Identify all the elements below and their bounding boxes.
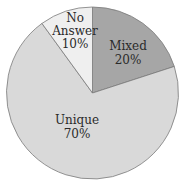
label-noanswer-value: 10% (62, 37, 89, 51)
label-noanswer-line1: No (66, 11, 84, 25)
label-mixed-name: Mixed (109, 39, 147, 53)
pie-chart: Mixed 20% Unique 70% No Answer 10% (0, 0, 181, 186)
label-noanswer-line2: Answer (51, 24, 98, 38)
label-mixed-value: 20% (115, 53, 142, 67)
label-unique-name: Unique (55, 113, 99, 127)
label-unique-value: 70% (64, 127, 91, 141)
